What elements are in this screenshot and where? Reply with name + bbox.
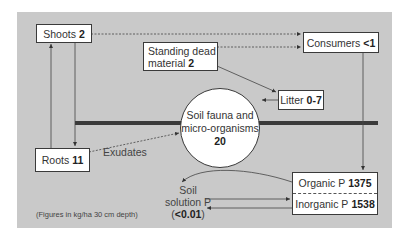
soil-solution-node: Soil solution P (<0.01) [165,184,211,220]
soil-fauna-label-line2: micro-organisms [181,122,259,135]
exudates-label: Exudates [103,146,147,158]
consumers-value: <1 [363,37,375,49]
shoots-node: Shoots 2 [36,24,92,43]
litter-value: 0-7 [307,94,322,106]
consumers-node: Consumers <1 [303,32,379,53]
shoots-label: Shoots [43,28,76,40]
organic-p-value: 1375 [348,177,371,189]
roots-node: Roots 11 [35,148,90,172]
standing-dead-label-line1: Standing dead [148,45,216,57]
inorganic-p-row: Inorganic P 1538 [293,193,377,214]
roots-label: Roots [42,154,69,166]
organic-p-label: Organic P [298,177,345,189]
soil-fauna-label-line1: Soil fauna and [186,109,253,122]
units-note: (Figures in kg/ha 30 cm depth) [36,210,138,219]
inorganic-p-label: Inorganic P [295,198,348,210]
soil-fauna-node: Soil fauna and micro-organisms 20 [180,88,260,168]
soil-fauna-value: 20 [214,135,226,148]
litter-node: Litter 0-7 [278,90,324,110]
soil-solution-label-line2: solution P [165,196,211,208]
standing-dead-node: Standing dead material2 [143,42,218,71]
standing-dead-value: 2 [188,57,194,69]
inorganic-p-value: 1538 [351,198,374,210]
roots-value: 11 [72,154,83,166]
standing-dead-label-line2: material [148,57,185,69]
consumers-label: Consumers [307,37,361,49]
litter-label: Litter [280,94,303,106]
soil-p-node: Organic P 1375 Inorganic P 1538 [292,172,378,215]
soil-solution-label-line1: Soil [165,184,211,196]
shoots-value: 2 [79,28,85,40]
organic-p-row: Organic P 1375 [293,173,377,193]
soil-solution-value: <0.01 [175,208,202,220]
